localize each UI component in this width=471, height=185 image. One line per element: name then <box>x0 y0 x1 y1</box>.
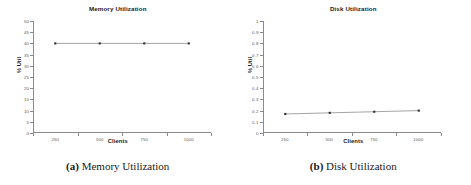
x-axis-title-disk: Clients <box>236 138 471 144</box>
y-axis-tick <box>260 21 263 22</box>
y-axis-tick-label: 10 <box>24 108 29 113</box>
x-axis-tick <box>33 133 34 136</box>
x-axis-tick <box>263 133 264 136</box>
y-axis-tick <box>260 66 263 67</box>
y-axis-tick <box>260 43 263 44</box>
y-axis-tick <box>30 77 33 78</box>
series-line-memory <box>33 21 211 133</box>
y-axis-tick <box>30 21 33 22</box>
y-axis-tick-label: 25 <box>24 75 29 80</box>
series-line-disk <box>263 21 441 133</box>
y-axis-tick-label: 0.4 <box>252 86 258 91</box>
x-axis-title-memory: Clients <box>0 138 236 144</box>
x-axis-tick <box>396 133 397 136</box>
chart-title-memory: Memory Utilization <box>0 5 236 12</box>
caption-text-b: Disk Utilization <box>326 160 397 172</box>
plot-area-memory: 051015202530354045502505007501000 <box>33 21 211 133</box>
y-axis-tick-label: 0.7 <box>252 52 258 57</box>
y-axis-tick-label: 15 <box>24 97 29 102</box>
x-axis-tick <box>307 133 308 136</box>
y-axis-tick-label: 0 <box>26 131 29 136</box>
caption-text-a: Memory Utilization <box>82 160 170 172</box>
plot-area-disk: 00.10.20.30.40.50.60.70.80.9125050075010… <box>263 21 441 133</box>
y-axis-tick <box>260 55 263 56</box>
y-axis-tick-label: 40 <box>24 41 29 46</box>
x-axis-tick <box>441 133 442 136</box>
caption-memory: (a) Memory Utilization <box>0 160 236 172</box>
x-axis-tick <box>78 133 79 136</box>
y-axis-tick <box>30 66 33 67</box>
y-axis-tick <box>30 99 33 100</box>
x-axis-tick <box>167 133 168 136</box>
y-axis-tick-label: 20 <box>24 86 29 91</box>
y-axis-tick <box>260 88 263 89</box>
chart-title-disk: Disk Utilization <box>236 5 471 12</box>
y-axis-tick-label: 0.1 <box>252 119 258 124</box>
y-axis-tick <box>30 111 33 112</box>
x-axis-tick <box>352 133 353 136</box>
y-axis-tick-label: 0.2 <box>252 108 258 113</box>
y-axis-tick <box>30 55 33 56</box>
y-axis-tick-label: 1 <box>256 19 259 24</box>
y-axis-title-memory: % Util <box>16 57 22 73</box>
y-axis-tick <box>260 111 263 112</box>
y-axis-tick-label: 50 <box>24 19 29 24</box>
caption-label-a: (a) <box>66 160 79 172</box>
x-axis-tick <box>211 133 212 136</box>
plot-canvas-disk: 00.10.20.30.40.50.60.70.80.9125050075010… <box>263 21 441 133</box>
y-axis-tick <box>30 43 33 44</box>
x-axis-tick <box>122 133 123 136</box>
y-axis-tick-label: 5 <box>26 119 29 124</box>
y-axis-tick <box>260 99 263 100</box>
y-axis-tick-label: 0.5 <box>252 75 258 80</box>
caption-label-b: (b) <box>310 160 323 172</box>
y-axis-tick-label: 0.8 <box>252 41 258 46</box>
y-axis-tick-label: 35 <box>24 52 29 57</box>
figure-panel-disk: Disk Utilization % Util 00.10.20.30.40.5… <box>236 0 471 185</box>
y-axis-tick <box>260 32 263 33</box>
y-axis-tick <box>260 77 263 78</box>
y-axis-tick-label: 30 <box>24 63 29 68</box>
figure-row: Memory Utilization % Util 05101520253035… <box>0 0 471 185</box>
y-axis-tick-label: 45 <box>24 30 29 35</box>
plot-canvas-memory: 051015202530354045502505007501000 <box>33 21 211 133</box>
y-axis-tick-label: 0.3 <box>252 97 258 102</box>
y-axis-tick-label: 0.6 <box>252 63 258 68</box>
y-axis-tick-label: 0.9 <box>252 30 258 35</box>
y-axis-tick-label: 0 <box>256 131 259 136</box>
y-axis-tick <box>30 122 33 123</box>
caption-disk: (b) Disk Utilization <box>236 160 471 172</box>
y-axis-tick <box>260 122 263 123</box>
figure-panel-memory: Memory Utilization % Util 05101520253035… <box>0 0 236 185</box>
y-axis-tick <box>30 32 33 33</box>
y-axis-tick <box>30 88 33 89</box>
